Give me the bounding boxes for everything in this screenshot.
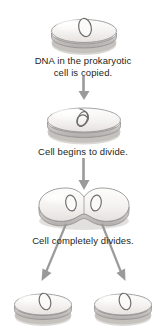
binary-fission-diagram: DNA in the prokaryotic cell is copied. C… (0, 0, 166, 332)
arrow-3-left-icon (42, 224, 67, 281)
step-1-caption: DNA in the prokaryotic cell is copied. (0, 55, 166, 78)
cell-illustration-step-1 (52, 17, 117, 55)
arrow-2-icon (79, 158, 90, 190)
step-2-caption: Cell begins to divide. (0, 146, 166, 158)
diagram-illustrations (0, 0, 166, 332)
arrow-1-icon (79, 76, 90, 100)
step-3-caption: Cell completely divides. (0, 235, 166, 247)
cell-illustration-step-2 (48, 108, 121, 145)
cell-illustration-step-4-right (95, 292, 152, 326)
cell-illustration-step-3 (39, 188, 129, 230)
arrow-3-right-icon (102, 224, 126, 281)
cell-illustration-step-4-left (15, 292, 72, 326)
